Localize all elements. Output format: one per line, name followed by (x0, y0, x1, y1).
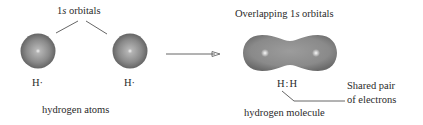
orbital-label: 1s orbitals (57, 6, 100, 17)
shared-pair-label-line2: of electrons (347, 95, 396, 106)
pointer-line-left (56, 21, 78, 33)
molecule-formula: H:H (277, 79, 298, 90)
hydrogen-molecule-shape (243, 35, 337, 71)
hydrogen-molecule-caption: hydrogen molecule (244, 108, 325, 119)
shared-pair-label-line1: Shared pair (347, 81, 395, 92)
hydrogen-atom-left-sphere (21, 34, 56, 69)
hydrogen-atoms-caption: hydrogen atoms (42, 105, 109, 116)
atom-left-label: H· (32, 78, 43, 89)
atom-right-label: H· (124, 78, 135, 89)
pointer-line-right (86, 21, 107, 34)
hydrogen-atom-right-sphere (113, 34, 148, 69)
overlap-label: Overlapping 1s orbitals (235, 9, 334, 20)
nucleus-right-highlight (312, 49, 320, 57)
shared-pair-pointer-line (282, 91, 345, 101)
nucleus-left-highlight (261, 49, 269, 57)
